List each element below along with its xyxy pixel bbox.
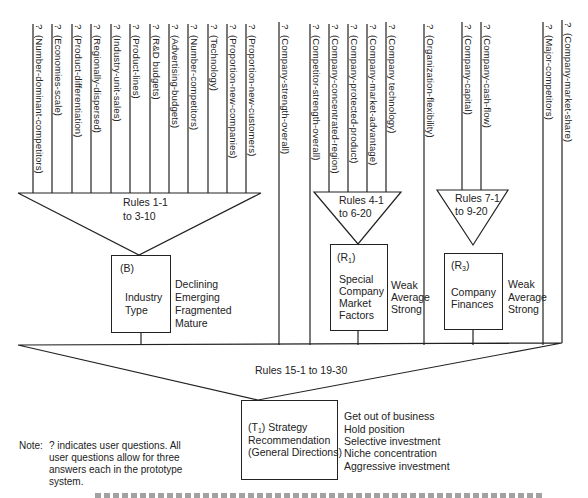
question-major-competitors: ? (Major-competitors): [544, 24, 554, 120]
cropped-caption-fragment: [95, 493, 545, 498]
strategy-box-title-line2: (General Directions): [248, 446, 342, 459]
question-mark: ?: [425, 24, 436, 29]
question-text: (Competitor-strength-overall): [311, 35, 322, 161]
question-mark: ?: [209, 24, 220, 29]
code-suffix: ) Strategy: [262, 421, 308, 433]
finance-value-average: Average: [508, 291, 547, 304]
question-text: (Product-differentiation): [73, 35, 84, 138]
question-rd-budgets: ? (R&D budgets): [151, 24, 161, 100]
rules-strategy: Rules 15-1 to 19-30: [255, 364, 347, 377]
market-box-title-line2: Company: [339, 285, 384, 298]
question-organization-flexibility: ? (Organization-flexibility): [425, 24, 435, 138]
question-mark: ?: [73, 24, 84, 29]
question-text: (Industry-unit-sales): [112, 35, 123, 122]
question-company-capital: ? (Company-capital): [463, 24, 473, 115]
note-line4: system.: [49, 476, 83, 489]
question-number-dominant-competitors: ? (Number-dominant-competitors): [34, 24, 44, 174]
question-proportion-new-customers: ? (Proportion-new-customers): [247, 24, 257, 156]
code-suffix: ): [466, 259, 470, 271]
rules-industry-line1: Rules 1-1: [123, 196, 168, 209]
question-text: (Economies-scale): [53, 35, 64, 116]
question-text: (Technology): [209, 35, 220, 91]
rules-industry-line2: to 3-10: [123, 210, 156, 223]
code-suffix: ): [352, 251, 356, 263]
note-label: Note:: [19, 440, 43, 453]
question-company-market-share: ? (Company-market-share): [563, 22, 573, 142]
question-text: (R&D budgets): [151, 35, 162, 100]
strategy-box-title-line1: Recommendation: [248, 434, 330, 447]
question-number-competitors: ? (Number-competitors): [189, 24, 199, 130]
code-prefix: (R: [451, 259, 462, 271]
question-mark: ?: [368, 24, 379, 29]
strategy-inference-diagram: ? (Number-dominant-competitors) ? (Econo…: [0, 0, 588, 498]
question-mark: ?: [151, 24, 162, 29]
industry-box-title-line2: Type: [125, 304, 148, 317]
question-text: (Company-capital): [463, 35, 474, 115]
question-mark: ?: [170, 24, 181, 29]
code-prefix: (T: [248, 421, 258, 433]
question-company-technology: ? (Company technology): [387, 24, 397, 134]
question-proportion-new-companies: ? (Proportion-new-companies): [228, 24, 238, 159]
question-product-differentiation: ? (Product-differentiation): [73, 24, 83, 138]
strategy-value-selective: Selective investment: [344, 435, 440, 448]
finance-value-weak: Weak: [508, 278, 535, 291]
question-text: (Company technology): [387, 35, 398, 134]
strategy-value-hold: Hold position: [344, 423, 405, 436]
question-advertising-budgets: ? (Advertising-budgets): [170, 24, 180, 128]
industry-value-declining: Declining: [175, 278, 218, 291]
finance-value-strong: Strong: [508, 303, 539, 316]
market-value-strong: Strong: [391, 303, 422, 316]
industry-value-mature: Mature: [175, 317, 208, 330]
rules-market-line1: Rules 4-1: [339, 194, 384, 207]
industry-box-title-line1: Industry: [125, 291, 162, 304]
question-mark: ?: [463, 24, 474, 29]
company-finances-box: (R3) Company Finances: [444, 253, 503, 330]
question-industry-unit-sales: ? (Industry-unit-sales): [112, 24, 122, 122]
question-mark: ?: [544, 24, 555, 29]
question-mark: ?: [53, 24, 64, 29]
question-text: (Company-market-advantage): [368, 35, 379, 166]
question-text: (Product-lines): [131, 35, 142, 99]
market-box-title-line3: Market: [339, 297, 371, 310]
strategy-value-aggressive: Aggressive investment: [344, 460, 450, 473]
note-line2: user questions allow for three: [49, 452, 180, 465]
question-mark: ?: [131, 24, 142, 29]
question-company-cash-flow: ? (Company-cash-flow): [482, 24, 492, 128]
question-mark: ?: [349, 24, 360, 29]
question-text: (Major-competitors): [544, 35, 555, 120]
question-technology: ? (Technology): [209, 24, 219, 91]
question-competitor-strength-overall: ? (Competitor-strength-overall): [311, 24, 321, 161]
industry-box-code: (B): [120, 262, 134, 275]
market-box-code: (R1): [337, 251, 356, 268]
strategy-value-niche: Niche concentration: [344, 447, 437, 460]
question-mark: ?: [280, 24, 291, 29]
market-box-title-line4: Factors: [339, 309, 374, 322]
industry-value-emerging: Emerging: [175, 291, 220, 304]
rules-finance-line2: to 9-20: [455, 205, 488, 218]
finance-box-title-line2: Finances: [451, 298, 494, 311]
question-company-strength-overall: ? (Company-strength-overall): [280, 24, 290, 154]
question-regionally-dispersed: ? (Regionally-dispersed): [92, 24, 102, 133]
question-text: (Number-dominant-competitors): [34, 35, 45, 174]
question-mark: ?: [330, 24, 341, 29]
question-product-lines: ? (Product-lines): [131, 24, 141, 99]
question-economies-scale: ? (Economies-scale): [53, 24, 63, 116]
question-company-market-advantage: ? (Company-market-advantage): [368, 24, 378, 166]
question-mark: ?: [112, 24, 123, 29]
question-text: (Company-concentrated-region): [330, 35, 341, 174]
market-box-title-line1: Special: [339, 273, 373, 286]
question-mark: ?: [482, 24, 493, 29]
question-text: (Organization-flexibility): [425, 35, 436, 138]
market-value-average: Average: [391, 291, 430, 304]
code-prefix: (R: [337, 251, 348, 263]
question-mark: ?: [189, 24, 200, 29]
rules-finance-line1: Rules 7-1: [455, 192, 500, 205]
strategy-value-get-out: Get out of business: [344, 410, 434, 423]
note-line3: answers each in the prototype: [49, 464, 182, 477]
industry-value-fragmented: Fragmented: [175, 304, 232, 317]
question-text: (Company-market-share): [563, 33, 574, 142]
question-mark: ?: [247, 24, 258, 29]
question-text: (Advertising-budgets): [170, 35, 181, 128]
market-factors-box: (R1) Special Company Market Factors: [330, 244, 388, 331]
question-mark: ?: [311, 24, 322, 29]
